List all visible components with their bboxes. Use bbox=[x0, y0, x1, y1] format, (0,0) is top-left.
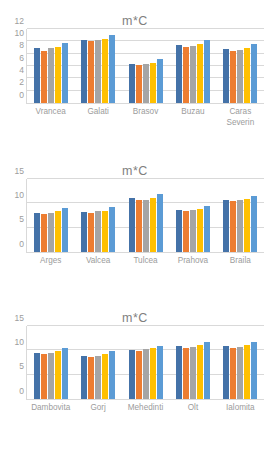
chart-panel-3: m*C151050DambovitaGorjMehedintiOltIalomi… bbox=[0, 302, 270, 449]
bar-group bbox=[169, 326, 216, 399]
bar bbox=[95, 356, 101, 399]
bar-group bbox=[122, 179, 169, 252]
x-axis-tick-label: Ialomita bbox=[217, 403, 264, 414]
x-axis-tick-label: Prahova bbox=[169, 256, 216, 267]
bar bbox=[143, 200, 149, 252]
bar bbox=[143, 349, 149, 399]
bar-group bbox=[74, 29, 121, 103]
x-axis-labels: ArgesValceaTulceaPrahovaBraila bbox=[27, 256, 264, 267]
y-axis-tick-label: 12 bbox=[15, 16, 24, 25]
y-axis-tick-label: 4 bbox=[19, 66, 24, 75]
plot-area: 151050 bbox=[26, 326, 264, 400]
y-axis-tick-label: 10 bbox=[15, 338, 24, 347]
bar bbox=[244, 48, 250, 103]
bar bbox=[204, 40, 210, 103]
bar bbox=[88, 213, 94, 252]
y-axis-tick-label: 5 bbox=[19, 362, 24, 371]
plot-wrapper: 121086420VranceaGalatiBrasovBuzauCarasSe… bbox=[4, 29, 264, 128]
bar bbox=[129, 64, 135, 103]
bar bbox=[251, 44, 257, 103]
plot-wrapper: 151050DambovitaGorjMehedintiOltIalomita bbox=[4, 326, 264, 414]
bar bbox=[81, 40, 87, 103]
bar bbox=[237, 347, 243, 399]
bar bbox=[204, 342, 210, 399]
bar bbox=[223, 346, 229, 399]
bar-group bbox=[27, 326, 74, 399]
x-axis-tick-label: Braila bbox=[217, 256, 264, 267]
bar bbox=[230, 201, 236, 252]
x-axis-tick-label: Vrancea bbox=[27, 107, 74, 128]
bar bbox=[230, 51, 236, 103]
bar bbox=[143, 64, 149, 103]
bar bbox=[176, 210, 182, 252]
charts-container: m*C121086420VranceaGalatiBrasovBuzauCara… bbox=[0, 0, 270, 449]
bar bbox=[109, 351, 115, 399]
bar bbox=[129, 198, 135, 252]
bar bbox=[223, 200, 229, 252]
plot-area: 121086420 bbox=[26, 29, 264, 104]
bar-group bbox=[217, 326, 264, 399]
y-axis-tick-label: 15 bbox=[15, 313, 24, 322]
bar bbox=[34, 213, 40, 252]
bar bbox=[244, 199, 250, 252]
x-axis-labels: VranceaGalatiBrasovBuzauCarasSeverin bbox=[27, 107, 264, 128]
bar bbox=[41, 214, 47, 252]
bar bbox=[150, 348, 156, 399]
y-axis-tick-label: 5 bbox=[19, 215, 24, 224]
bar bbox=[55, 47, 61, 103]
bar bbox=[157, 59, 163, 103]
bar-group bbox=[74, 326, 121, 399]
bar-group bbox=[217, 179, 264, 252]
chart-title: m*C bbox=[0, 0, 270, 29]
bar bbox=[136, 65, 142, 103]
chart-title: m*C bbox=[0, 302, 270, 326]
x-axis-tick-label: Gorj bbox=[74, 403, 121, 414]
bar bbox=[244, 345, 250, 399]
bar bbox=[41, 354, 47, 399]
bar bbox=[41, 51, 47, 103]
bar bbox=[48, 353, 54, 399]
y-axis-tick-label: 0 bbox=[19, 90, 24, 99]
bar-group bbox=[74, 179, 121, 252]
y-axis-tick-label: 0 bbox=[19, 386, 24, 395]
bar bbox=[81, 212, 87, 252]
bar bbox=[136, 200, 142, 252]
x-axis-tick-label: Olt bbox=[169, 403, 216, 414]
bar-group bbox=[27, 29, 74, 103]
bar bbox=[197, 209, 203, 252]
bar bbox=[136, 351, 142, 399]
y-axis-tick-label: 15 bbox=[15, 166, 24, 175]
y-axis-tick-label: 10 bbox=[15, 29, 24, 38]
bar bbox=[109, 35, 115, 103]
y-axis-tick-label: 8 bbox=[19, 41, 24, 50]
x-axis-tick-label: CarasSeverin bbox=[217, 107, 264, 128]
bar bbox=[34, 48, 40, 103]
x-axis-tick-label: Buzau bbox=[169, 107, 216, 128]
bar bbox=[81, 356, 87, 399]
bar bbox=[183, 348, 189, 399]
bar-group bbox=[169, 29, 216, 103]
bar bbox=[190, 46, 196, 103]
x-axis-tick-label: Valcea bbox=[74, 256, 121, 267]
bar bbox=[157, 346, 163, 399]
bar-groups bbox=[27, 29, 264, 103]
plot-area: 151050 bbox=[26, 179, 264, 253]
bar bbox=[102, 354, 108, 399]
bar-groups bbox=[27, 326, 264, 399]
bar-group bbox=[122, 29, 169, 103]
bar bbox=[102, 211, 108, 252]
bar bbox=[102, 39, 108, 103]
bar bbox=[48, 213, 54, 252]
bar bbox=[150, 198, 156, 252]
bar-group bbox=[217, 29, 264, 103]
y-axis-tick-label: 0 bbox=[19, 239, 24, 248]
bar bbox=[204, 206, 210, 252]
x-axis-tick-label: Galati bbox=[74, 107, 121, 128]
bar bbox=[251, 342, 257, 399]
chart-title: m*C bbox=[0, 155, 270, 179]
bar bbox=[62, 208, 68, 252]
bar bbox=[95, 40, 101, 103]
bar bbox=[129, 350, 135, 399]
x-axis-tick-label: Tulcea bbox=[122, 256, 169, 267]
x-axis-tick-label: Mehedinti bbox=[122, 403, 169, 414]
